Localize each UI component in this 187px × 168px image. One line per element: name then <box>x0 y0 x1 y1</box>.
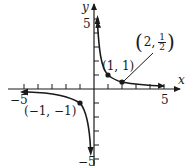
fraction-denominator: 2 <box>159 43 165 52</box>
fraction: 1 2 <box>158 33 166 52</box>
label-point-neg1-neg1: (−1, −1) <box>24 104 76 118</box>
x-axis-label: x <box>178 73 185 87</box>
graph-canvas: y x 5 −5 −5 5 (1, 1) (−1, −1) (2, <box>0 0 187 168</box>
paren-open: ( <box>135 30 143 54</box>
point-neg1-neg1 <box>77 100 82 105</box>
x-tick-label-5: 5 <box>161 93 169 107</box>
y-tick-label-5: 5 <box>83 17 91 31</box>
fraction-numerator: 1 <box>158 33 166 43</box>
coord-x: 2, <box>144 35 155 49</box>
paren-close: ) <box>167 30 175 54</box>
point-1-1 <box>105 72 110 77</box>
y-axis-label: y <box>81 0 89 14</box>
label-point-1-1: (1, 1) <box>102 59 134 73</box>
label-point-2-half-html: ( 2, 1 2 ) <box>135 30 175 54</box>
y-tick-label-neg5: −5 <box>78 155 96 168</box>
point-2-half <box>119 79 124 84</box>
reciprocal-function-graph: y x 5 −5 −5 5 (1, 1) (−1, −1) (2, ( 2, 1… <box>0 0 187 168</box>
